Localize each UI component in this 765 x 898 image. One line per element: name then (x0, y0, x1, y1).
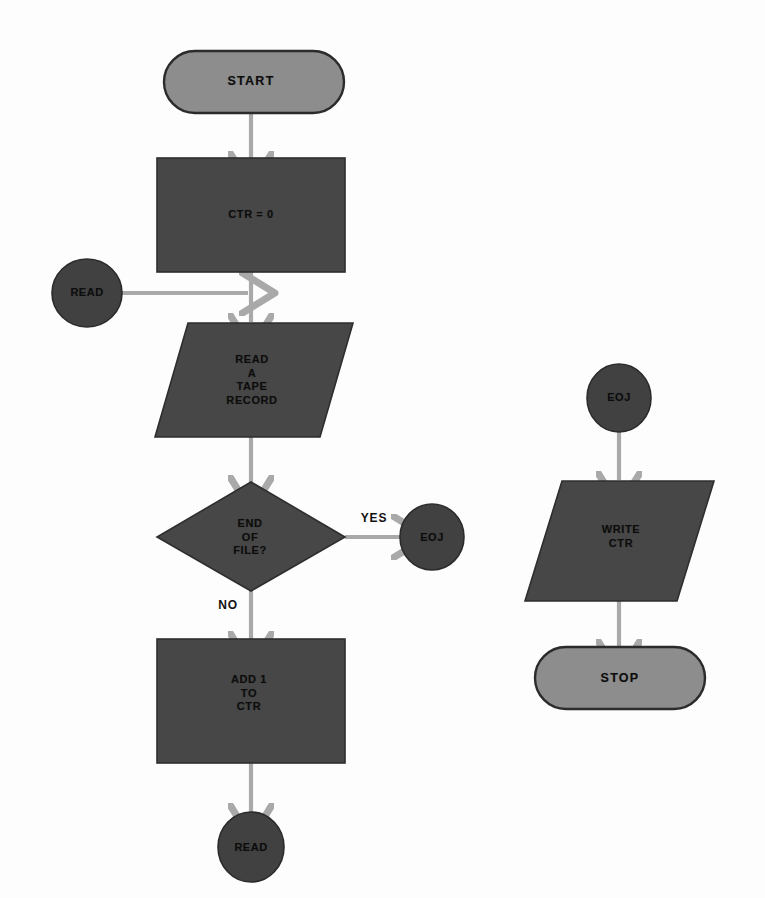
node-eoj-connector-in-shape[interactable] (587, 364, 651, 432)
node-eoj-connector-out-shape[interactable] (400, 504, 464, 570)
node-end-of-file-shape[interactable] (157, 482, 345, 591)
node-init-counter-shape[interactable] (157, 158, 345, 272)
node-read-record-shape[interactable] (155, 323, 353, 437)
flowchart-canvas: START CTR = 0 READ READ A TAPE RECORD EN… (0, 0, 765, 898)
node-read-connector-in-shape[interactable] (52, 259, 122, 327)
node-write-counter-shape[interactable] (525, 481, 714, 601)
node-stop-shape[interactable] (535, 647, 705, 709)
node-start-shape[interactable] (164, 51, 344, 113)
node-read-connector-out-shape[interactable] (218, 812, 284, 882)
flowchart-svg (0, 0, 765, 898)
node-add-counter-shape[interactable] (157, 639, 345, 763)
